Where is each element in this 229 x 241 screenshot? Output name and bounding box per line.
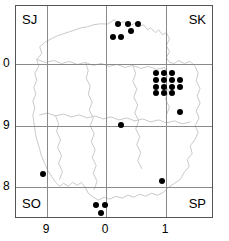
data-point xyxy=(177,109,183,115)
gridline-vertical-9 xyxy=(47,6,48,217)
data-point xyxy=(118,122,124,128)
data-point xyxy=(169,90,175,96)
gridline-horizontal-0 xyxy=(16,64,212,65)
gridline-vertical-1 xyxy=(166,6,167,217)
data-point xyxy=(153,77,159,83)
gridline-vertical-0 xyxy=(106,6,107,217)
data-point xyxy=(128,28,134,34)
gridline-horizontal-8 xyxy=(16,187,212,188)
plot-frame: SJ SK SO SP xyxy=(15,5,213,218)
data-point xyxy=(169,77,175,83)
sheet-label-top-right: SK xyxy=(189,13,206,26)
data-point xyxy=(102,202,108,208)
data-point xyxy=(153,70,159,76)
data-point xyxy=(159,178,165,184)
data-point xyxy=(115,21,121,27)
distribution-map-figure: SJ SK SO SP 0 9 8 9 0 1 xyxy=(0,0,229,241)
y-tick-label-0: 0 xyxy=(3,57,10,69)
data-point xyxy=(169,70,175,76)
data-point xyxy=(161,90,167,96)
x-tick-label-0: 0 xyxy=(102,223,109,235)
data-point xyxy=(118,34,124,40)
x-tick-label-1: 1 xyxy=(162,223,169,235)
y-tick-label-9: 9 xyxy=(3,119,10,131)
data-point xyxy=(125,21,131,27)
data-point xyxy=(177,84,183,90)
data-point xyxy=(93,202,99,208)
sheet-label-bottom-left: SO xyxy=(22,197,41,210)
data-point xyxy=(135,21,141,27)
data-point xyxy=(98,210,104,216)
y-tick-label-8: 8 xyxy=(3,180,10,192)
data-point xyxy=(177,77,183,83)
data-point xyxy=(161,77,167,83)
data-point xyxy=(153,90,159,96)
data-point xyxy=(161,70,167,76)
sheet-label-top-left: SJ xyxy=(22,13,37,26)
data-point xyxy=(40,171,46,177)
data-point xyxy=(110,34,116,40)
gridline-horizontal-9 xyxy=(16,126,212,127)
x-tick-label-9: 9 xyxy=(43,223,50,235)
sheet-label-bottom-right: SP xyxy=(189,197,206,210)
